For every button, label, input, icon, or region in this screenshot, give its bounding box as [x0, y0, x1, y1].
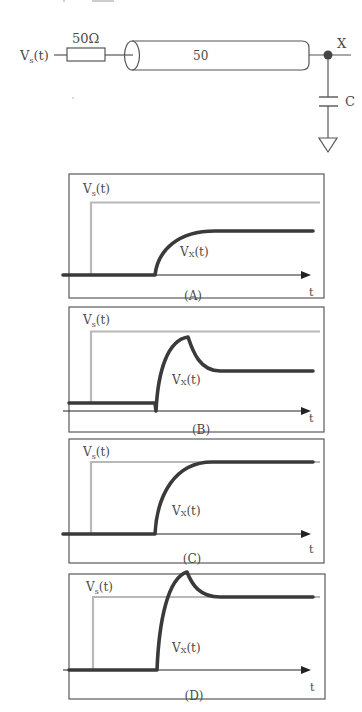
- resistor-icon: [67, 48, 105, 61]
- panel-b: Vs(t) VX(t) t (B): [63, 307, 324, 437]
- vs-trace: [91, 462, 320, 534]
- figure-svg: Vs(t) 50Ω 50 X C Vs(t) VX(t) t (: [0, 0, 362, 712]
- diagram-stage: Vs(t) 50Ω 50 X C Vs(t) VX(t) t (: [0, 0, 362, 712]
- t-label: t: [309, 412, 314, 425]
- vx-label: VX(t): [171, 504, 201, 518]
- cropped-header-fragment: [63, 0, 114, 2]
- node-x-dot: [324, 51, 333, 60]
- source-label: Vs(t): [19, 48, 49, 65]
- panel-d: Vs(t) VX(t) t (D): [63, 572, 325, 703]
- vs-trace: [91, 203, 320, 276]
- panel-caption: (B): [192, 423, 210, 437]
- axis-arrow-icon: [301, 271, 311, 279]
- vx-label: VX(t): [171, 373, 201, 387]
- axis-arrow-icon: [301, 530, 311, 538]
- t-label: t: [309, 286, 314, 299]
- vx-label: VX(t): [179, 245, 209, 259]
- tline-impedance-label: 50: [193, 49, 208, 63]
- panel-caption: (D): [185, 689, 204, 703]
- circuit-schematic: Vs(t) 50Ω 50 X C: [19, 31, 355, 152]
- vs-label: Vs(t): [82, 445, 110, 461]
- ground-icon: [319, 138, 337, 152]
- vx-trace: [63, 462, 313, 534]
- panel-caption: (A): [184, 289, 202, 303]
- transmission-line-icon: [125, 41, 310, 70]
- vs-label: Vs(t): [85, 580, 113, 596]
- vx-label: VX(t): [171, 641, 201, 655]
- capacitor-icon: [319, 97, 338, 106]
- capacitor-label: C: [345, 94, 355, 109]
- panel-c: Vs(t) VX(t) t (C): [63, 439, 324, 566]
- t-label: t: [309, 543, 314, 556]
- panel-caption: (C): [183, 552, 202, 566]
- resistor-label: 50Ω: [72, 31, 99, 46]
- vs-trace: [93, 597, 320, 670]
- axis-arrow-icon: [301, 666, 311, 674]
- node-x-label: X: [337, 36, 347, 51]
- t-label: t: [310, 681, 315, 694]
- panel-a: Vs(t) VX(t) t (A): [63, 174, 324, 303]
- vs-label: Vs(t): [82, 313, 110, 329]
- vs-label: Vs(t): [82, 182, 110, 198]
